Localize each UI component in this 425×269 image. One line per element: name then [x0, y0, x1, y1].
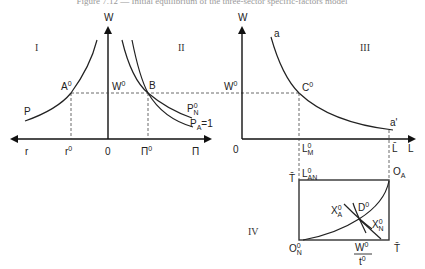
curve-a-prime-label: a': [390, 117, 398, 128]
origin-label-right: 0: [233, 144, 239, 155]
r-axis-label: r: [25, 146, 29, 157]
r0-label: r0: [65, 145, 72, 157]
right-panel: W III a a' W0 C0 0 L0M L̄ L: [224, 12, 414, 180]
xa0-label: X0A: [331, 204, 343, 218]
oa-label: OA: [393, 166, 406, 179]
point-B-label: B: [149, 80, 156, 91]
curve-PN0-label: P0N: [187, 102, 199, 116]
quadrant-I-label: I: [35, 42, 38, 53]
curve-PA1-label: PA=1: [190, 118, 213, 131]
xn0-label: X0N: [372, 218, 384, 232]
curve-P-label: P: [24, 106, 31, 117]
pi0-label: Π0: [141, 145, 152, 157]
left-panel: W I II P A0 W0 B P0N PA=1 r r0 0 Π0 Π: [12, 12, 300, 157]
l-axis-label: L: [408, 143, 414, 154]
w0-label-left: W0: [112, 80, 125, 92]
quadrant-II-label: II: [178, 42, 185, 53]
figure-title: Figure 7.12 — Initial equilibrium of the…: [77, 0, 348, 6]
tbar-right-label: T̄: [394, 242, 400, 254]
tbar-left-label: T̄: [289, 172, 295, 184]
w-axis-label-right: W: [238, 12, 248, 23]
curve-aa-prime: [271, 37, 393, 130]
contract-curve: [303, 181, 389, 240]
point-C0-label: C0: [302, 81, 313, 93]
lm0-label: L0M: [302, 142, 313, 156]
w-axis-label-left: W: [104, 12, 114, 23]
box-panel: IV T̄ L0AN OA O0N X0A D0 X0N T̄ W0 t0: [248, 166, 406, 267]
curve-a-label: a: [274, 28, 280, 39]
lbar-label: L̄: [392, 142, 398, 154]
ratio-denominator: t0: [359, 255, 366, 267]
on0-label: O0N: [289, 242, 302, 256]
lan0-label: L0AN: [302, 167, 317, 181]
d0-label: D0: [358, 201, 369, 213]
quadrant-III-label: III: [360, 42, 370, 53]
point-A0-label: A0: [61, 80, 72, 92]
edgeworth-box: [299, 180, 389, 240]
curve-PA1: [132, 40, 193, 127]
quadrant-IV-label: IV: [248, 226, 259, 237]
four-quadrant-diagram: Figure 7.12 — Initial equilibrium of the…: [0, 0, 425, 269]
pi-axis-label: Π: [192, 146, 199, 157]
ratio-numerator: W0: [355, 241, 368, 253]
origin-label-left: 0: [105, 146, 111, 157]
w0-label-right: W0: [224, 80, 237, 92]
